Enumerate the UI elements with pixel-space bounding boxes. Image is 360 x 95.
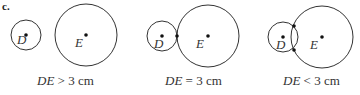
label-e: E xyxy=(195,36,204,51)
center-e-dot xyxy=(320,35,324,39)
caption-lhs: DE xyxy=(283,73,300,88)
intersection-point-top xyxy=(292,24,296,28)
center-e-dot xyxy=(84,33,88,37)
caption-op: < xyxy=(304,73,311,88)
panel-1: D E xyxy=(11,4,117,66)
caption-lhs: DE xyxy=(37,73,54,88)
caption-rhs: 3 cm xyxy=(68,73,94,88)
label-d: D xyxy=(275,37,286,52)
label-d: D xyxy=(153,36,164,51)
tangent-point xyxy=(175,34,179,38)
caption-op: = xyxy=(186,73,193,88)
label-d: D xyxy=(16,32,27,47)
panel-3: D E xyxy=(268,6,353,68)
caption-panel-3: DE < 3 cm xyxy=(283,73,340,89)
caption-rhs: 3 cm xyxy=(196,73,222,88)
intersection-point-bottom xyxy=(292,48,296,52)
caption-lhs: DE xyxy=(165,73,182,88)
caption-op: > xyxy=(58,73,65,88)
center-e-dot xyxy=(206,34,210,38)
panel-2: D E xyxy=(147,5,239,67)
label-e: E xyxy=(309,37,318,52)
caption-panel-2: DE = 3 cm xyxy=(165,73,222,89)
caption-rhs: 3 cm xyxy=(314,73,340,88)
label-e: E xyxy=(74,35,83,50)
caption-panel-1: DE > 3 cm xyxy=(37,73,94,89)
